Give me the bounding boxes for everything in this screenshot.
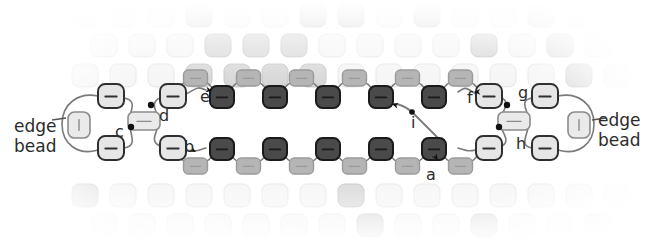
thread-dot-g: [504, 102, 510, 108]
background-fade-mask: [0, 0, 656, 250]
left-inner-top-light-bead: [160, 84, 186, 108]
label-line: bead: [598, 130, 641, 150]
label-e: e: [200, 89, 210, 105]
top-mid-bead: [290, 70, 314, 86]
bottom-mid-bead: [237, 158, 261, 174]
left-top-light-bead: [98, 84, 124, 108]
label-line: edge: [598, 110, 641, 130]
right-inner-top-light-bead: [476, 84, 502, 108]
label-c: c: [115, 124, 124, 140]
beadwork-diagram: edgebeadedgebeadefghcdbai: [0, 0, 656, 250]
bottom-mid-bead: [343, 158, 367, 174]
top-mid-bead: [449, 70, 473, 86]
label-line: bead: [14, 136, 57, 156]
right-inner-bottom-light-bead: [476, 136, 502, 160]
top-dark-bead: [263, 86, 287, 108]
bottom-mid-bead: [449, 158, 473, 174]
label-f: f: [467, 90, 473, 106]
bottom-mid-bead: [396, 158, 420, 174]
top-dark-bead: [369, 86, 393, 108]
diagram-canvas: [0, 0, 656, 250]
thread-dot-h: [496, 124, 502, 130]
label-i: i: [411, 115, 415, 131]
bottom-dark-bead: [210, 138, 234, 160]
left-edge-bead: [68, 112, 90, 138]
right-edge-bead: [568, 112, 590, 138]
label-d: d: [159, 108, 169, 124]
top-dark-bead: [422, 86, 446, 108]
top-mid-bead: [184, 70, 208, 86]
label-b: b: [184, 139, 194, 155]
thread-dot-c: [128, 124, 134, 130]
label-h: h: [516, 136, 526, 152]
thread-dot-d: [148, 102, 154, 108]
top-mid-bead: [396, 70, 420, 86]
top-dark-bead: [316, 86, 340, 108]
top-mid-bead: [237, 70, 261, 86]
label-edge_bead_left: edgebead: [14, 116, 57, 156]
label-edge_bead_right: edgebead: [598, 110, 641, 150]
bottom-mid-bead: [184, 158, 208, 174]
bottom-dark-bead: [316, 138, 340, 160]
right-bottom-light-bead: [532, 136, 558, 160]
top-dark-bead: [210, 86, 234, 108]
top-mid-bead: [343, 70, 367, 86]
bottom-dark-bead: [263, 138, 287, 160]
bottom-dark-bead: [369, 138, 393, 160]
right-top-light-bead: [532, 84, 558, 108]
right-center-bead: [498, 112, 530, 130]
label-g: g: [518, 85, 528, 101]
left-inner-bottom-light-bead: [160, 136, 186, 160]
label-line: edge: [14, 116, 57, 136]
bottom-mid-bead: [290, 158, 314, 174]
label-a: a: [426, 167, 436, 183]
